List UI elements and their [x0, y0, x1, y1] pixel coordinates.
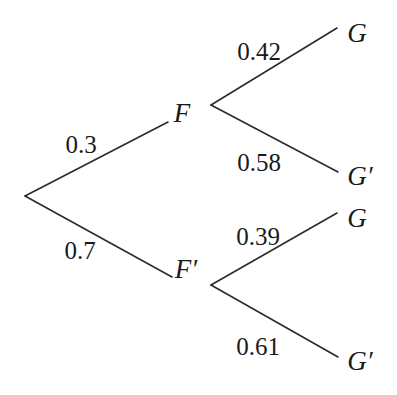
node-label-F-G: G: [347, 18, 367, 48]
edge-label-root-to-F: 0.3: [65, 131, 96, 158]
edge-label-Fprime-to-G: 0.39: [236, 223, 280, 250]
diagram-background: [0, 0, 397, 395]
node-label-Fp-Gprime: G′: [347, 346, 373, 376]
node-label-F-Gprime: G′: [347, 161, 373, 191]
node-label-Fp-G: G: [347, 203, 367, 233]
edge-label-root-to-Fprime: 0.7: [64, 237, 95, 264]
node-label-Fprime: F′: [174, 254, 198, 284]
probability-tree-diagram: F F′ G G′ G G′ 0.3 0.7 0.42 0.58 0.39 0.…: [0, 0, 397, 395]
edge-label-Fprime-to-Gprime: 0.61: [236, 333, 280, 360]
node-label-F: F: [173, 98, 191, 128]
edge-label-F-to-Gprime: 0.58: [237, 149, 281, 176]
edge-label-F-to-G: 0.42: [237, 38, 281, 65]
